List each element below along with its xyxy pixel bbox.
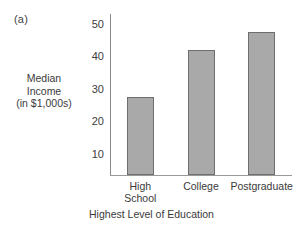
x-category-label-line: High	[124, 180, 156, 192]
x-axis-title: Highest Level of Education	[0, 208, 303, 220]
bar	[127, 97, 154, 175]
plot-area: 10 20 30 40 50 HighSchool College Postgr…	[110, 14, 292, 176]
panel-label: (a)	[14, 13, 28, 25]
y-axis-line	[110, 14, 111, 176]
y-tick-label: 30	[92, 83, 104, 95]
y-tick-label: 40	[92, 50, 104, 62]
y-tick-label: 50	[92, 18, 104, 30]
y-axis-title-line-2: Income	[2, 85, 86, 98]
bar	[248, 32, 275, 175]
x-category-label-line: Postgraduate	[230, 180, 292, 192]
x-axis-line	[110, 175, 292, 176]
y-tick-label: 20	[92, 115, 104, 127]
x-category-label: Postgraduate	[230, 180, 292, 192]
y-axis-title: Median Income (in $1,000s)	[2, 72, 86, 110]
x-category-label: College	[183, 180, 219, 192]
y-axis-title-line-3: (in $1,000s)	[2, 97, 86, 110]
x-category-label: HighSchool	[124, 180, 156, 204]
x-category-label-line: School	[124, 192, 156, 204]
y-tick-label: 10	[92, 148, 104, 160]
bar-chart-figure: (a) Median Income (in $1,000s) 10 20 30 …	[0, 0, 303, 230]
x-category-label-line: College	[183, 180, 219, 192]
y-axis-title-line-1: Median	[2, 72, 86, 85]
bar	[188, 50, 215, 175]
